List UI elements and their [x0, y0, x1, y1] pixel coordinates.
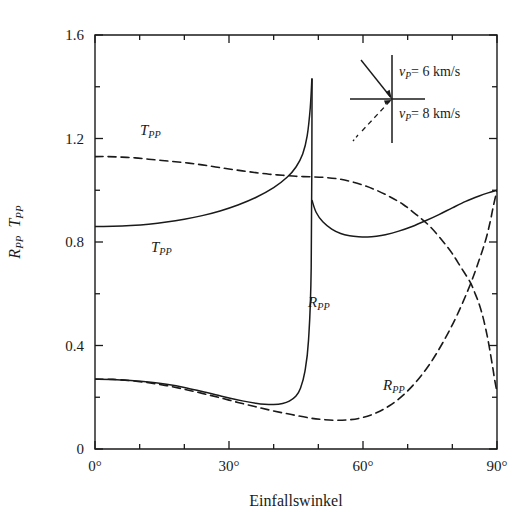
x-axis-title: Einfallswinkel: [249, 492, 342, 510]
curve-series-3: [95, 79, 312, 405]
transmitted-ray-tail: [353, 135, 358, 141]
y-axis-title-r-sub: PP: [13, 236, 25, 249]
ytick-label-0: 0: [42, 441, 84, 458]
curve-label-rpp-dashed: RPP: [383, 377, 405, 394]
ytick-label-0-8: 0.8: [42, 234, 84, 251]
curve-label-rpp-solid-base: R: [308, 294, 317, 310]
legend-upper-medium: vP= 6 km/s: [399, 64, 460, 80]
legend-lower-symbol-sub: P: [405, 113, 411, 123]
curve-series-0: [95, 157, 497, 392]
xtick-label-60deg: 60°: [353, 458, 374, 475]
legend-lower-value: 8 km/s: [422, 106, 460, 121]
curve-label-rpp-solid-sub: PP: [317, 301, 329, 312]
y-axis-title: RPP TPP: [6, 205, 24, 258]
transmitted-ray: [362, 101, 390, 131]
curve-label-rpp-dashed-sub: PP: [392, 384, 404, 395]
legend-upper-value: 6 km/s: [422, 64, 460, 79]
y-axis-title-r: R: [6, 249, 23, 259]
curve-series-2: [312, 190, 497, 237]
xtick-label-0deg: 0°: [88, 458, 102, 475]
legend-lower-equals: =: [411, 106, 419, 121]
curve-label-tpp-solid: TPP: [151, 239, 172, 256]
curve-label-tpp-dashed: TPP: [140, 122, 161, 139]
xtick-label-90deg: 90°: [487, 458, 508, 475]
legend-upper-equals: =: [411, 64, 419, 79]
curve-label-tpp-solid-sub: PP: [159, 246, 171, 257]
ytick-label-1-6: 1.6: [42, 27, 84, 44]
figure-container: 0 0.4 0.8 1.2 1.6 0° 30° 60° 90° RPP TPP…: [0, 0, 530, 530]
curve-label-tpp-dashed-sub: PP: [148, 129, 160, 140]
curve-label-rpp-dashed-base: R: [383, 377, 392, 393]
y-axis-title-t-sub: PP: [13, 205, 25, 218]
legend-upper-symbol-sub: P: [405, 71, 411, 81]
ytick-label-0-4: 0.4: [42, 337, 84, 354]
curve-series-4: [95, 190, 497, 420]
y-axis-title-t: T: [6, 219, 23, 228]
curve-label-rpp-solid: RPP: [308, 294, 330, 311]
xtick-label-30deg: 30°: [219, 458, 240, 475]
ytick-label-1-2: 1.2: [42, 130, 84, 147]
curve-series-1: [95, 79, 312, 226]
legend-lower-medium: vP= 8 km/s: [399, 106, 460, 122]
incident-ray: [361, 60, 391, 97]
